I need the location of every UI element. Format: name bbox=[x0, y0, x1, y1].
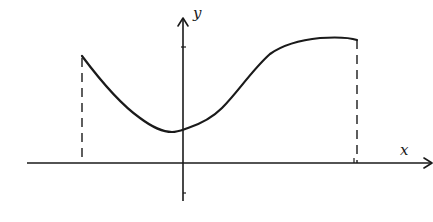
function-curve bbox=[82, 37, 357, 132]
y-axis-label: y bbox=[193, 6, 201, 21]
function-graph-diagram: y x bbox=[0, 0, 433, 222]
x-axis-label: x bbox=[400, 143, 408, 158]
graph-svg bbox=[0, 0, 433, 222]
